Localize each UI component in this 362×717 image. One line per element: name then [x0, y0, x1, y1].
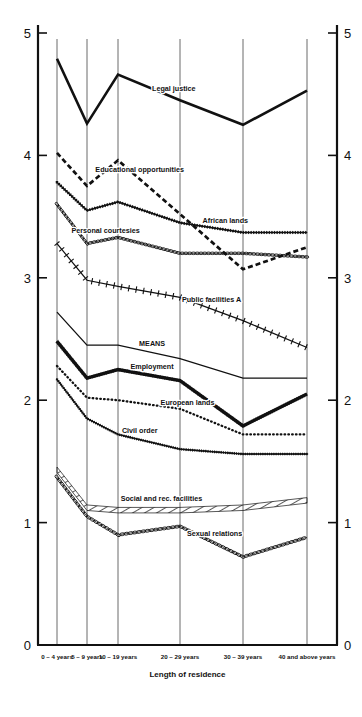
bead	[123, 203, 126, 206]
bead	[131, 205, 134, 208]
hash	[106, 281, 107, 287]
bead	[165, 217, 168, 220]
y-label-left-4: 4	[24, 148, 31, 163]
bead	[140, 208, 143, 211]
axis-labels: 5544332211000 – 4 years5 – 9 years10 – 1…	[24, 26, 351, 679]
axis-frame	[37, 25, 338, 645]
x-tick-label-5: 40 and above years	[278, 653, 336, 660]
x-axis-title: Length of residence	[149, 670, 226, 679]
hash	[113, 282, 114, 288]
hatched-band	[57, 467, 307, 513]
hash	[150, 289, 151, 295]
bead	[163, 216, 166, 219]
bead	[175, 220, 178, 223]
hash	[91, 278, 92, 284]
series-label: Public facilities A	[182, 295, 241, 304]
hash	[143, 288, 144, 294]
y-label-left-1: 1	[24, 516, 31, 531]
hash	[158, 290, 159, 296]
y-label-left-0: 0	[24, 638, 31, 653]
bead	[173, 219, 176, 222]
bead	[160, 215, 163, 218]
series-labels: Legal justiceLegal justiceEducational op…	[71, 84, 248, 538]
series-label: Legal justice	[152, 84, 196, 93]
bead	[145, 210, 148, 213]
curve-line	[57, 477, 307, 557]
series-label: Civil order	[122, 426, 158, 435]
x-tick-label-2: 10 – 19 years	[99, 653, 138, 660]
bead	[126, 203, 129, 206]
line-chart: Legal justiceLegal justiceEducational op…	[0, 0, 362, 717]
bead	[121, 202, 124, 205]
y-label-left-2: 2	[24, 393, 31, 408]
chart-container: Legal justiceLegal justiceEducational op…	[0, 0, 362, 717]
hash	[121, 284, 122, 290]
x-tick-label-0: 0 – 4 years	[41, 653, 73, 660]
bead	[153, 212, 156, 215]
series-label: Employment	[131, 362, 175, 371]
bead	[133, 206, 136, 209]
y-label-right-4: 4	[344, 148, 351, 163]
series-label: European lands	[161, 398, 215, 407]
hash	[128, 285, 129, 291]
bead	[155, 213, 158, 216]
bead	[150, 212, 153, 215]
hash	[99, 280, 100, 286]
bead	[305, 453, 308, 456]
bead	[170, 218, 173, 221]
gridlines	[57, 39, 307, 645]
bead	[158, 214, 161, 217]
series-label: Social and rec. facilities	[121, 494, 203, 503]
bead	[136, 207, 139, 210]
x-tick-label-4: 30 – 39 years	[224, 653, 263, 660]
series-label: Educational opportunities	[95, 165, 184, 174]
series-employment	[56, 340, 307, 427]
series-social-and-rec-facilities	[57, 467, 307, 513]
bead	[96, 206, 99, 209]
bead	[143, 209, 146, 212]
series-label: African lands	[203, 216, 249, 225]
y-label-right-5: 5	[344, 26, 351, 41]
bead	[148, 211, 151, 214]
bead	[138, 208, 141, 211]
hash	[173, 293, 174, 299]
hash	[136, 286, 137, 292]
bead	[128, 204, 131, 207]
series-sexual-relations	[54, 474, 307, 559]
series-label: Sexual relations	[187, 529, 242, 538]
y-label-right-0: 0	[344, 638, 351, 653]
series-curves	[54, 59, 309, 559]
bead	[168, 217, 171, 220]
y-label-left-3: 3	[24, 271, 31, 286]
series-public-facilities-a	[55, 242, 308, 351]
y-label-right-2: 2	[344, 393, 351, 408]
series-label: Personal courtesies	[71, 226, 139, 235]
x-tick-label-3: 20 – 29 years	[161, 653, 200, 660]
series-civil-order	[56, 378, 309, 455]
y-label-right-1: 1	[344, 516, 351, 531]
series-label: MEANS	[139, 339, 165, 348]
y-label-left-5: 5	[24, 26, 31, 41]
y-label-right-3: 3	[344, 271, 351, 286]
hash	[165, 292, 166, 298]
bead	[106, 203, 109, 206]
series-means	[57, 312, 307, 378]
curve-line	[57, 379, 307, 454]
curve-line	[57, 312, 307, 378]
